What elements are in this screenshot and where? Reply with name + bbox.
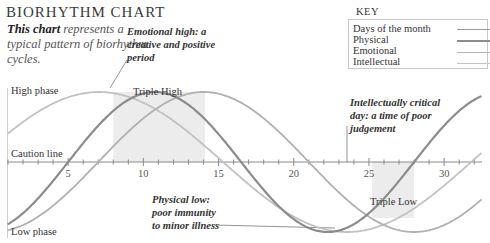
label-triple-low: Triple Low xyxy=(370,196,417,207)
x-tick-label: 30 xyxy=(439,168,450,179)
x-tick-label: 20 xyxy=(289,168,300,179)
x-tick-label: 10 xyxy=(138,168,149,179)
label-triple-high: Triple High xyxy=(133,86,182,97)
label-caution-line: Caution line xyxy=(11,148,63,159)
label-low-phase: Low phase xyxy=(11,226,57,237)
x-tick-label: 15 xyxy=(213,168,224,179)
label-high-phase: High phase xyxy=(11,85,59,96)
x-tick-label: 25 xyxy=(364,168,375,179)
leader-emotional-high xyxy=(110,60,127,88)
triple-high-region xyxy=(113,92,205,162)
x-tick-label: 5 xyxy=(66,168,71,179)
